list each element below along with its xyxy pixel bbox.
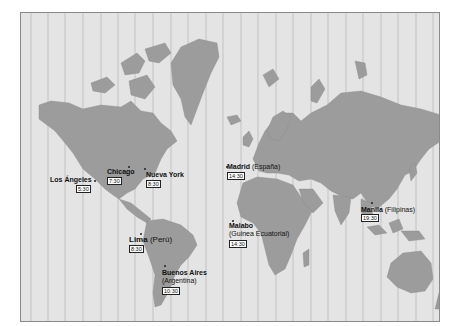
- city-label-lima: Lima (Perú): [129, 236, 172, 244]
- time-badge-madrid: 14:30: [227, 172, 245, 180]
- manila-marker: [371, 202, 373, 204]
- city-name-manila: Manila: [361, 206, 383, 213]
- city-name-madrid: Madrid: [227, 163, 250, 170]
- buenos-aires-marker: [164, 265, 166, 267]
- city-region-lima: (Perú): [150, 235, 172, 244]
- time-badge-nueva-york: 8:30: [146, 180, 161, 188]
- city-label-madrid: Madrid (España): [227, 163, 280, 171]
- time-badge-los-angeles: 5:30: [76, 185, 91, 193]
- city-label-manila: Manila (Filipinas): [361, 206, 415, 214]
- time-badge-buenos-aires: 10:30: [162, 287, 180, 295]
- city-label-los-angeles: Los Ángeles: [50, 176, 92, 184]
- city-region-madrid: (España): [252, 163, 280, 170]
- city-name-lima: Lima: [129, 235, 148, 244]
- city-label-buenos-aires: Buenos Aires(Argentina): [162, 269, 207, 285]
- city-region-buenos-aires: (Argentina): [162, 277, 197, 284]
- city-name-buenos-aires: Buenos Aires: [162, 269, 207, 276]
- city-label-nueva-york: Nueva York: [146, 171, 184, 179]
- city-name-malabo: Malabo: [229, 222, 253, 229]
- time-badge-malabo: 14:30: [229, 240, 247, 248]
- city-region-manila: (Filipinas): [385, 206, 415, 213]
- city-region-malabo: (Guinea Ecuatorial): [229, 230, 289, 237]
- nueva-york-marker: [144, 168, 146, 170]
- time-badge-lima: 8:30: [129, 245, 144, 253]
- time-badge-chicago: 7:30: [107, 177, 122, 185]
- city-label-chicago: Chicago: [107, 168, 135, 176]
- los-angeles-marker: [94, 180, 96, 182]
- time-badge-manila: 19:30: [361, 214, 379, 222]
- city-label-malabo: Malabo(Guinea Ecuatorial): [229, 222, 289, 238]
